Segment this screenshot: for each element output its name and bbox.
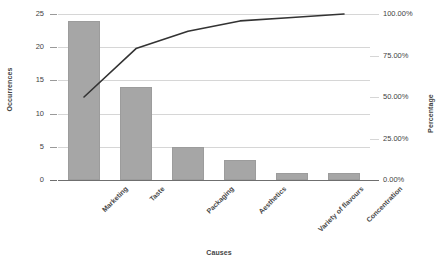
y-axis-right-tick-label: 0.00%	[383, 175, 433, 184]
y-axis-left-tick-label: 25	[10, 9, 44, 18]
cumulative-line-series	[58, 14, 370, 180]
y-axis-right-tick-label: 100.00%	[383, 9, 433, 18]
x-axis-title: Causes	[0, 249, 438, 256]
x-axis-category-label: Variety of flavours	[317, 185, 365, 233]
y-axis-left-tick-label: 0	[10, 175, 44, 184]
y-axis-right-tick	[370, 180, 379, 181]
y-axis-left-tick-label: 15	[10, 75, 44, 84]
y-axis-right-tick-label: 75.00%	[383, 51, 433, 60]
x-axis-category-label: Packaging	[205, 185, 235, 215]
axis-baseline	[58, 180, 370, 181]
y-axis-left-tick-label: 5	[10, 142, 44, 151]
y-axis-left-tick	[50, 147, 57, 148]
y-axis-right-tick	[370, 139, 379, 140]
y-axis-right-tick-label: 25.00%	[383, 134, 433, 143]
y-axis-left-tick	[50, 47, 57, 48]
y-axis-left-tick	[50, 80, 57, 81]
plot-area: 0510152025 0.00%25.00%50.00%75.00%100.00…	[58, 14, 370, 180]
y-axis-left-tick	[50, 114, 57, 115]
y-axis-left-tick-label: 10	[10, 109, 44, 118]
x-axis-category-label: Aesthetics	[257, 185, 287, 215]
pareto-chart: Occurrences Percentage Causes 0510152025…	[0, 0, 438, 270]
x-axis-category-label: Taste	[148, 185, 166, 203]
y-axis-right-tick	[370, 56, 379, 57]
y-axis-right-tick	[370, 14, 379, 15]
y-axis-right-tick	[370, 97, 379, 98]
x-axis-category-label: Concentration	[365, 185, 404, 224]
y-axis-right-tick-label: 50.00%	[383, 92, 433, 101]
y-axis-left-tick	[50, 14, 57, 15]
cumulative-line-path	[84, 14, 344, 97]
y-axis-left-tick	[50, 180, 57, 181]
x-axis-category-label: Marketing	[101, 185, 129, 213]
y-axis-left-tick-label: 20	[10, 42, 44, 51]
